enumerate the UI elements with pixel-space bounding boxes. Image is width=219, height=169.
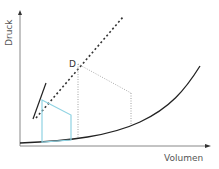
- cycle-polygon: [42, 100, 71, 142]
- pv-diagram: Druck Volumen D: [0, 0, 219, 169]
- guide-diagonal: [78, 64, 131, 93]
- y-axis-arrow-icon: [18, 10, 22, 15]
- y-axis-label: Druck: [4, 19, 14, 46]
- x-axis-label: Volumen: [164, 153, 203, 163]
- tangent-dashed-line: [36, 17, 123, 118]
- coexistence-curve: [20, 66, 200, 143]
- point-d-label: D: [69, 59, 76, 69]
- x-axis-arrow-icon: [205, 144, 211, 148]
